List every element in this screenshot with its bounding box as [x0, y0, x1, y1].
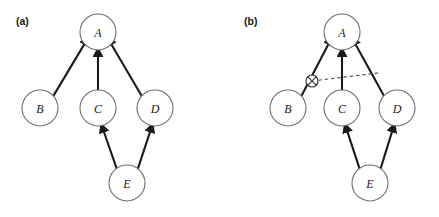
- panel-a-nodes: A B C D E: [22, 14, 173, 201]
- edge-e-to-d: [138, 131, 150, 168]
- edge-e-to-c: [104, 132, 117, 169]
- node-d: D: [137, 90, 173, 126]
- node-a-label: A: [337, 26, 346, 40]
- panel-a: (a) A B: [16, 14, 173, 201]
- edge-e-to-c: [347, 131, 359, 168]
- dashed-connector-line: [319, 73, 382, 81]
- panel-a-label: (a): [16, 15, 29, 27]
- panel-b: (b): [244, 14, 415, 201]
- edge-b-to-a: [53, 44, 84, 96]
- node-a-label: A: [93, 26, 102, 40]
- edge-d-to-a: [111, 44, 142, 96]
- edge-e-to-d: [381, 131, 393, 168]
- node-a: A: [80, 14, 116, 50]
- figure-container: (a) A B: [0, 0, 439, 217]
- node-e: E: [352, 165, 388, 201]
- node-c: C: [324, 90, 360, 126]
- node-e-label: E: [365, 177, 374, 191]
- node-b: B: [270, 90, 306, 126]
- node-b-label: B: [284, 102, 292, 116]
- edge-d-to-a: [356, 44, 385, 96]
- block-marker-icon: [306, 75, 318, 87]
- node-c-label: C: [94, 102, 103, 116]
- node-b: B: [22, 90, 58, 126]
- panel-b-nodes: A B C D E: [270, 14, 415, 201]
- panel-b-annotations: [319, 73, 382, 81]
- causal-diagram-svg: (a) A B: [0, 0, 439, 217]
- node-e-label: E: [122, 177, 131, 191]
- panel-b-label: (b): [244, 15, 257, 27]
- node-d-label: D: [150, 102, 160, 116]
- node-b-label: B: [36, 102, 44, 116]
- edge-b-to-a: [301, 44, 328, 96]
- node-c: C: [80, 90, 116, 126]
- node-d-label: D: [392, 102, 402, 116]
- node-d: D: [379, 90, 415, 126]
- node-a: A: [324, 14, 360, 50]
- node-c-label: C: [338, 102, 347, 116]
- node-e: E: [109, 165, 145, 201]
